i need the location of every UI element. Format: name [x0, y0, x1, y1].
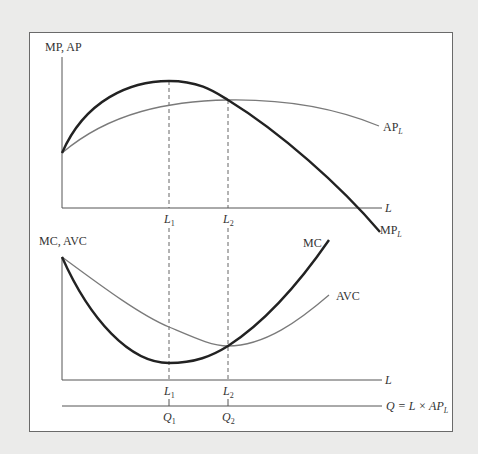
figure-page: MP, AP L APL MPL L1 L2 MC, AVC [0, 0, 478, 454]
bottom-x-axis-label: L [384, 373, 392, 387]
production-cost-diagram: MP, AP L APL MPL L1 L2 MC, AVC [0, 0, 478, 454]
mp-curve-label: MPL [380, 223, 402, 239]
ap-curve [62, 100, 379, 153]
bottom-tick-l2: L2 [222, 384, 234, 400]
top-panel: MP, AP L APL MPL L1 L2 [45, 40, 403, 239]
top-x-axis-label: L [384, 201, 392, 215]
bottom-tick-l1: L1 [163, 384, 175, 400]
q-tick-label-1: Q1 [163, 410, 176, 426]
q-axis-label: Q = L × APL [386, 399, 449, 415]
top-y-axis-label: MP, AP [45, 40, 82, 54]
bottom-y-axis-label: MC, AVC [39, 234, 87, 248]
avc-curve-label: AVC [336, 289, 360, 303]
mc-curve-label: MC [303, 236, 322, 250]
avc-curve [62, 257, 329, 346]
mp-curve [62, 81, 380, 232]
ap-curve-label: APL [383, 120, 403, 136]
q-tick-label-2: Q2 [222, 410, 235, 426]
bottom-panel: MC, AVC L MC AVC L1 L2 Q1 Q2 Q = L × APL [39, 228, 449, 426]
mc-curve [62, 240, 329, 363]
top-tick-l1: L1 [163, 212, 175, 228]
top-tick-l2: L2 [222, 212, 234, 228]
